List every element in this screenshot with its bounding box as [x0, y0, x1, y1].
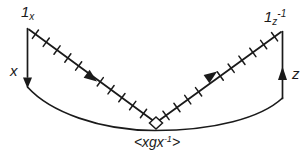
label-conjugacy-superscript: -1: [164, 134, 172, 144]
hatch-marks-right: [163, 33, 278, 120]
label-identity-x: 1x: [21, 4, 34, 25]
label-conjugacy-post: >: [172, 134, 180, 150]
diagram-canvas: 1x 1z-1 x z <xgx-1>: [0, 0, 308, 155]
right-wire-arrowhead: [278, 67, 287, 81]
label-conjugacy-class: <xgx-1>: [118, 131, 196, 150]
label-identity-x-subscript: x: [29, 11, 34, 22]
label-right-wire: z: [292, 66, 300, 82]
label-identity-z-inverse: 1z-1: [264, 6, 286, 30]
label-identity-z-superscript: -1: [277, 8, 286, 19]
right-strand-arrowhead: [204, 72, 218, 84]
label-left-wire: x: [10, 63, 18, 79]
label-conjugacy-pre: <xgx: [134, 134, 164, 150]
